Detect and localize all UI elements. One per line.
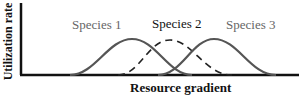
species-3-label: Species 3: [226, 17, 275, 33]
species-2-label: Species 2: [152, 16, 201, 32]
x-axis-label: Resource gradient: [130, 80, 231, 96]
y-axis-label: Utilization rate: [1, 0, 16, 84]
species-1-label: Species 1: [72, 17, 121, 33]
niche-partitioning-diagram: Species 1 Species 2 Species 3 Utilizatio…: [0, 0, 299, 96]
